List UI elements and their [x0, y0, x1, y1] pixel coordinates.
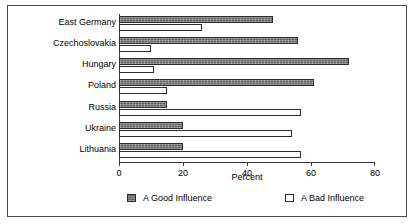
x-tick-0 [119, 162, 120, 166]
bar-bad-hungary [119, 66, 154, 73]
bar-good-hungary [119, 58, 349, 65]
plot-area: 0 20 40 60 80 [119, 14, 375, 162]
category-label-east-germany: East Germany [18, 17, 116, 27]
chart-figure-frame: East Germany Czechoslovakia Hungary Pola… [7, 5, 407, 217]
legend-item-bad-influence: A Bad Influence [285, 192, 364, 204]
bar-good-ukraine [119, 122, 183, 129]
bar-bad-czechoslovakia [119, 45, 151, 52]
category-label-hungary: Hungary [18, 59, 116, 69]
category-label-czechoslovakia: Czechoslovakia [18, 38, 116, 48]
bar-bad-russia [119, 109, 301, 116]
x-tick-20 [183, 162, 184, 166]
bar-good-lithuania [119, 143, 183, 150]
category-axis-labels: East Germany Czechoslovakia Hungary Pola… [18, 14, 116, 162]
bar-group-hungary [119, 56, 375, 77]
category-label-lithuania: Lithuania [18, 144, 116, 154]
legend-label-bad-influence: A Bad Influence [301, 193, 364, 203]
bar-bad-ukraine [119, 130, 292, 137]
bar-good-east-germany [119, 16, 273, 23]
bar-bad-poland [119, 87, 167, 94]
bar-group-russia [119, 99, 375, 120]
x-tick-80 [374, 162, 375, 166]
legend-swatch-bad-icon [285, 194, 294, 202]
category-label-ukraine: Ukraine [18, 123, 116, 133]
bar-bad-lithuania [119, 151, 301, 158]
bar-group-lithuania [119, 141, 375, 162]
x-tick-60 [311, 162, 312, 166]
category-label-russia: Russia [18, 102, 116, 112]
bar-group-east-germany [119, 14, 375, 35]
x-axis-title: Percent [119, 172, 375, 183]
bar-group-poland [119, 77, 375, 98]
legend-swatch-good-icon [127, 194, 136, 202]
legend-label-good-influence: A Good Influence [143, 193, 212, 203]
bar-good-czechoslovakia [119, 37, 298, 44]
bar-bad-east-germany [119, 24, 202, 31]
bar-group-ukraine [119, 120, 375, 141]
legend-item-good-influence: A Good Influence [127, 192, 212, 204]
bar-good-russia [119, 101, 167, 108]
bar-good-poland [119, 79, 314, 86]
bar-group-czechoslovakia [119, 35, 375, 56]
x-tick-40 [247, 162, 248, 166]
chart-legend: A Good Influence A Bad Influence [119, 192, 397, 206]
category-label-poland: Poland [18, 80, 116, 90]
